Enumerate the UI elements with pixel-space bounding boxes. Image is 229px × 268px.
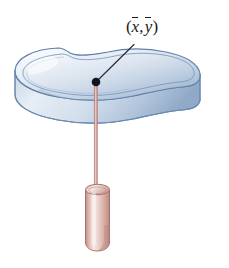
lamina-body: [15, 44, 210, 123]
plumb-bob: [86, 184, 110, 251]
centroid-dot: [92, 78, 101, 87]
label-y-bar: y: [145, 16, 153, 37]
centroid-label: (x, y): [104, 16, 180, 37]
label-comma: ,: [139, 17, 143, 36]
plumb-line-group: [94, 82, 97, 190]
plumb-bob-highlight: [92, 192, 97, 246]
figure-canvas: (x, y): [0, 0, 229, 268]
plumb-string: [94, 82, 97, 190]
lamina-plumb-diagram: [0, 0, 229, 268]
label-close-paren: ): [152, 17, 158, 36]
label-x-bar: x: [132, 16, 140, 37]
